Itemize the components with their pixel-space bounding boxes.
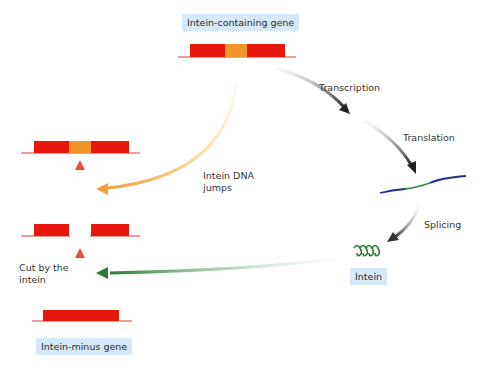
intein-dna-jumps-caption: Intein DNA jumps — [203, 170, 254, 194]
cut-by-intein-line2: intein — [19, 274, 69, 286]
translation-label: Translation — [403, 132, 455, 144]
intein-containing-gene-graphic — [178, 44, 296, 57]
protein-strand-graphic — [380, 176, 466, 193]
translation-arrow-icon — [364, 121, 416, 174]
splicing-label: Splicing — [424, 219, 461, 231]
cut-by-intein-line1: Cut by the — [19, 262, 69, 274]
transcription-label: Transcription — [319, 82, 380, 94]
intein-coil-icon — [354, 246, 380, 256]
splicing-arrow-icon — [387, 205, 420, 242]
intein-inserted-gene-graphic — [21, 141, 140, 153]
intein-dna-jumps-line2: jumps — [203, 182, 254, 194]
intein-tag: Intein — [350, 268, 387, 285]
cut-by-intein-caption: Cut by the intein — [19, 262, 69, 286]
intein-cut-arrow-icon — [96, 259, 332, 279]
intein-homing-diagram: Intein-containing gene Intein-minus gene… — [0, 0, 487, 371]
intein-dna-jumps-line1: Intein DNA — [203, 170, 254, 182]
red-up-arrow-icon — [75, 160, 85, 207]
red-up-arrow-icon — [75, 248, 85, 295]
intein-containing-gene-tag: Intein-containing gene — [182, 14, 299, 31]
intein-minus-gene-tag: Intein-minus gene — [36, 338, 132, 355]
intein-minus-gene-graphic — [32, 310, 132, 321]
cut-gene-graphic — [21, 224, 140, 236]
